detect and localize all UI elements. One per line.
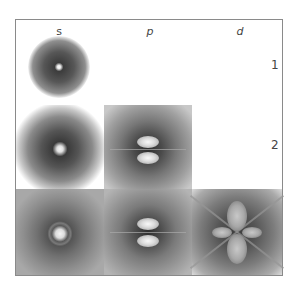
orbital-lobe-lower xyxy=(137,152,159,164)
orbital-lobe-upper xyxy=(137,136,159,148)
orbital-3d xyxy=(192,189,282,275)
orbital-lobe-upper xyxy=(137,218,159,230)
orbital-lobe-top xyxy=(227,201,247,231)
row-label-1: 1 xyxy=(271,58,279,72)
row-label-2: 2 xyxy=(271,138,279,152)
orbital-lobe-right xyxy=(242,227,262,238)
orbital-1s xyxy=(28,36,90,98)
nodal-plane xyxy=(110,232,186,233)
orbital-3p xyxy=(104,189,192,275)
orbital-2s xyxy=(16,105,104,193)
nodal-plane xyxy=(110,149,186,150)
column-label-d: d xyxy=(237,25,244,38)
orbital-2p xyxy=(104,105,192,193)
column-label-p: p xyxy=(147,25,154,38)
orbital-lobe-lower xyxy=(137,235,159,247)
orbital-3s xyxy=(16,189,104,275)
orbital-lobe-left xyxy=(212,227,232,238)
orbital-lobe-bottom xyxy=(227,234,247,264)
